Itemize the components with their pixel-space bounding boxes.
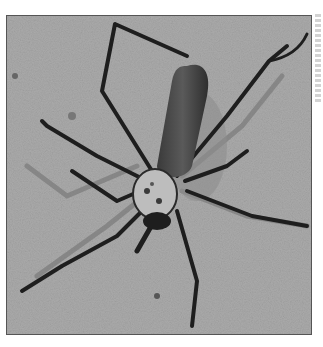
photo-credit-vertical-text	[315, 14, 321, 104]
spider-photo	[6, 15, 312, 335]
